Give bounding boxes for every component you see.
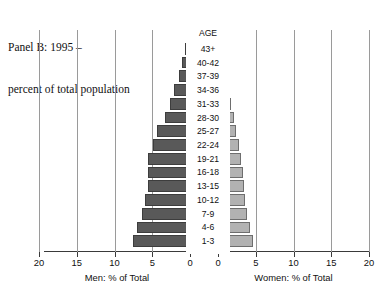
- x-tick-label-men-20: 20: [27, 257, 51, 268]
- population-pyramid-figure: Panel B: 1995 – percent of total populat…: [0, 0, 381, 294]
- age-label-25-27: 25-27: [186, 126, 230, 136]
- age-label-40-42: 40-42: [186, 58, 230, 68]
- age-label-43+: 43+: [186, 44, 230, 54]
- bar-men-16-18: [148, 167, 190, 179]
- bar-men-22-24: [153, 139, 190, 151]
- age-label-37-39: 37-39: [186, 71, 230, 81]
- bar-men-25-27: [157, 125, 190, 137]
- gridline-men-20: [39, 30, 40, 252]
- age-label-28-30: 28-30: [186, 113, 230, 123]
- bar-men-19-21: [148, 153, 190, 165]
- bar-men-7-9: [142, 208, 190, 220]
- x-tick-label-men-5: 5: [140, 257, 164, 268]
- x-tick-label-women-15: 15: [319, 257, 343, 268]
- x-tick-label-women-5: 5: [244, 257, 268, 268]
- women-axis-caption: Women: % of Total: [218, 272, 369, 283]
- bar-men-13-15: [148, 180, 190, 192]
- age-label-31-33: 31-33: [186, 99, 230, 109]
- age-label-34-36: 34-36: [186, 85, 230, 95]
- bar-men-10-12: [145, 194, 190, 206]
- x-tick-label-women-20: 20: [357, 257, 381, 268]
- age-column-header: AGE: [186, 28, 230, 38]
- bar-men-1-3: [133, 235, 190, 247]
- age-label-22-24: 22-24: [186, 140, 230, 150]
- x-tick-label-men-0: 0: [178, 257, 202, 268]
- age-label-column: AGE43+40-4237-3934-3631-3328-3025-2722-2…: [186, 26, 230, 254]
- bar-men-4-6: [137, 222, 190, 234]
- x-tick-label-women-0: 0: [206, 257, 230, 268]
- age-label-19-21: 19-21: [186, 154, 230, 164]
- age-label-7-9: 7-9: [186, 209, 230, 219]
- x-tick-label-men-10: 10: [103, 257, 127, 268]
- gridline-women-20: [369, 30, 370, 252]
- age-label-4-6: 4-6: [186, 222, 230, 232]
- age-label-10-12: 10-12: [186, 195, 230, 205]
- age-label-16-18: 16-18: [186, 167, 230, 177]
- x-tick-label-women-10: 10: [282, 257, 306, 268]
- men-axis-caption: Men: % of Total: [44, 272, 190, 283]
- age-label-1-3: 1-3: [186, 236, 230, 246]
- age-label-13-15: 13-15: [186, 181, 230, 191]
- x-tick-label-men-15: 15: [65, 257, 89, 268]
